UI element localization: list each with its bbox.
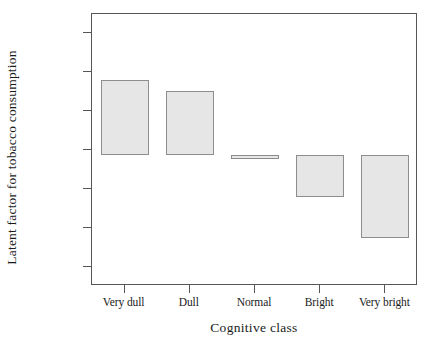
y-axis-tick xyxy=(83,266,91,267)
x-axis-tick xyxy=(319,285,320,293)
plot-area xyxy=(91,13,417,285)
x-axis-tick-label: Very bright xyxy=(329,296,430,308)
bar xyxy=(231,155,279,159)
bar-series xyxy=(92,14,416,284)
x-axis-title: Cognitive class xyxy=(91,320,417,336)
bar xyxy=(296,155,344,197)
y-axis-tick xyxy=(83,188,91,189)
y-axis-tick xyxy=(83,110,91,111)
bar xyxy=(166,91,214,155)
x-axis-tick xyxy=(124,285,125,293)
y-axis-title: Latent factor for tobacco consumption xyxy=(4,15,30,300)
bar-chart-figure: Latent factor for tobacco consumption 0.… xyxy=(0,0,430,356)
x-axis-tick xyxy=(384,285,385,293)
y-axis-tick xyxy=(83,71,91,72)
x-axis-tick xyxy=(189,285,190,293)
x-axis-tick xyxy=(254,285,255,293)
y-axis-tick xyxy=(83,149,91,150)
y-axis-tick xyxy=(83,227,91,228)
bar xyxy=(361,155,409,239)
y-axis-tick xyxy=(83,32,91,33)
bar xyxy=(101,80,149,155)
